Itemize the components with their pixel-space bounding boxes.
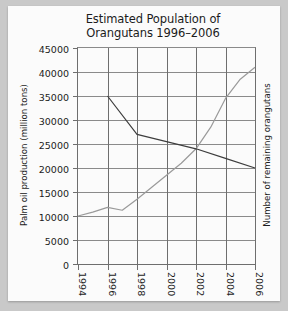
x-axis-tick xyxy=(78,264,79,270)
x-axis-tick-label: 1994 xyxy=(77,272,88,296)
chart-figure: Estimated Population of Orangutans 1996–… xyxy=(8,6,280,301)
x-axis-tick-label: 1996 xyxy=(106,272,117,296)
x-axis-tick-label: 2002 xyxy=(195,272,206,296)
y-axis-label-left: Palm oil production (million tons) xyxy=(17,47,31,263)
y-axis-tick-label: 45000 xyxy=(39,44,69,55)
chart-title: Estimated Population of Orangutans 1996–… xyxy=(44,13,262,40)
y-axis-tick-label: 25000 xyxy=(39,140,69,151)
y-axis-tick-label: 0 xyxy=(63,260,69,271)
chart-title-line-2: Orangutans 1996–2006 xyxy=(44,27,262,41)
x-axis-tick xyxy=(137,264,138,270)
x-axis-tick-label: 1998 xyxy=(136,272,147,296)
y-axis-label-right-text: Number of remaining orangutans xyxy=(260,47,274,263)
y-axis-tick-label: 15000 xyxy=(39,188,69,199)
chart-title-line-1: Estimated Population of xyxy=(44,13,262,27)
y-axis-tick-label: 35000 xyxy=(39,92,69,103)
y-axis-tick-label: 30000 xyxy=(39,116,69,127)
x-axis-tick xyxy=(167,264,168,270)
x-axis-tick xyxy=(255,264,256,270)
x-axis-tick-label: 2004 xyxy=(224,272,235,296)
x-axis-tick-label: 2000 xyxy=(165,272,176,296)
y-axis-tick-label: 40000 xyxy=(39,68,69,79)
y-axis-label-left-text: Palm oil production (million tons) xyxy=(17,47,31,263)
x-axis-tick xyxy=(196,264,197,270)
y-axis-tick-label: 20000 xyxy=(39,164,69,175)
plot-area: 0500010000150002000025000300003500040000… xyxy=(77,47,256,264)
x-axis-tick-label: 2006 xyxy=(254,272,265,296)
series-line xyxy=(108,96,256,168)
y-axis-tick-label: 5000 xyxy=(45,236,69,247)
series-lines xyxy=(78,48,255,264)
x-axis-tick xyxy=(108,264,109,270)
x-axis-tick xyxy=(226,264,227,270)
y-axis-tick-label: 10000 xyxy=(39,212,69,223)
y-axis-label-right: Number of remaining orangutans xyxy=(260,47,274,263)
